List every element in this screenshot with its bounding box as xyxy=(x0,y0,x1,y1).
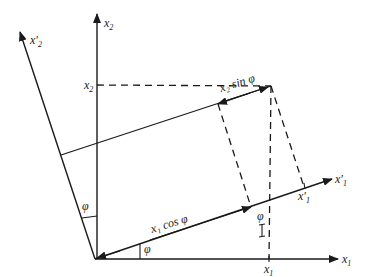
origin-arrow xyxy=(97,251,120,258)
x1-prime-value-label: x′1 xyxy=(297,189,310,205)
x1-value-label: x1 xyxy=(263,262,273,277)
angle-mark-right-bottom xyxy=(259,236,265,237)
x2-prime-axis-label: x′2 xyxy=(29,33,42,49)
x2-sin-phi-label: x₂ sin φ xyxy=(217,71,257,95)
x1-prime-axis-label: x′1 xyxy=(334,172,347,188)
diagram-svg: x2 x′2 x2 x1 x′1 x1 x′1 x₂ sin φ x₁ cos … xyxy=(0,0,367,277)
x2-axis-label: x2 xyxy=(103,16,113,32)
dashed-point-to-x1 xyxy=(269,86,271,259)
x1-axis-label: x1 xyxy=(341,252,351,268)
angle-phi-left-label: φ xyxy=(82,199,89,213)
x1-cos-phi-label: x₁ cos φ xyxy=(148,211,190,236)
angle-phi-bottom-label: φ xyxy=(144,242,151,256)
x2-prime-axis xyxy=(20,32,95,259)
angle-phi-right-label: φ xyxy=(257,209,264,223)
x2-value-label: x2 xyxy=(83,78,93,94)
angle-mark-right-top xyxy=(259,224,265,225)
x2-sin-phi-arrow-back xyxy=(218,93,250,104)
dashed-point-to-x1-prime xyxy=(271,86,304,187)
angle-mark-left xyxy=(82,216,97,218)
rotation-diagram: x2 x′2 x2 x1 x′1 x1 x′1 x₂ sin φ x₁ cos … xyxy=(0,0,367,277)
dashed-sin-to-x1-prime xyxy=(218,104,251,207)
